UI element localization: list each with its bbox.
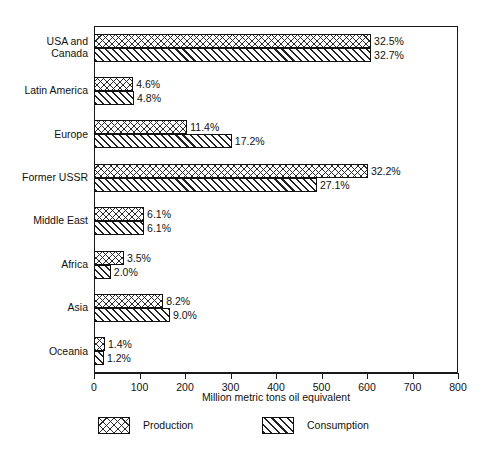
bar-value-label: 4.8% xyxy=(137,91,161,105)
bar-production xyxy=(94,120,187,134)
bar-production xyxy=(94,251,124,265)
bar-value-label: 6.1% xyxy=(147,207,171,221)
category-label-line: Oceania xyxy=(0,346,88,358)
bar-value-label: 32.2% xyxy=(371,164,401,178)
bar-chart: USA andCanadaLatin AmericaEuropeFormer U… xyxy=(0,0,486,453)
bar-production xyxy=(94,164,368,178)
category-label-line: Canada xyxy=(0,48,88,60)
category-label-line: Former USSR xyxy=(0,172,88,184)
x-axis-tick xyxy=(185,373,186,379)
bar-value-label: 17.2% xyxy=(235,134,265,148)
x-axis-title: Million metric tons oil equivalent xyxy=(94,391,458,403)
legend-item-production[interactable]: Production xyxy=(98,414,193,436)
bar-value-label: 9.0% xyxy=(173,308,197,322)
bar-production xyxy=(94,337,105,351)
bar-value-label: 4.6% xyxy=(136,77,160,91)
bar-value-label: 1.2% xyxy=(107,351,131,365)
bar-consumption xyxy=(94,351,104,365)
x-axis-tick xyxy=(231,373,232,379)
category-label: Latin America xyxy=(0,85,88,97)
bar-consumption xyxy=(94,221,144,235)
category-label: Asia xyxy=(0,302,88,314)
bar-value-label: 1.4% xyxy=(108,337,132,351)
bar-value-label: 2.0% xyxy=(114,265,138,279)
x-axis-tick xyxy=(322,373,323,379)
bar-value-label: 27.1% xyxy=(320,178,350,192)
bar-consumption xyxy=(94,48,371,62)
legend-label: Production xyxy=(143,419,193,431)
bar-value-label: 6.1% xyxy=(147,221,171,235)
x-axis-tick xyxy=(140,373,141,379)
category-axis-labels: USA andCanadaLatin AmericaEuropeFormer U… xyxy=(0,26,88,373)
bar-production xyxy=(94,207,144,221)
category-label: Former USSR xyxy=(0,172,88,184)
bar-production xyxy=(94,34,371,48)
category-label-line: Latin America xyxy=(0,85,88,97)
x-axis-tick xyxy=(458,373,459,379)
category-label-line: Africa xyxy=(0,259,88,271)
bar-production xyxy=(94,77,133,91)
category-label-line: USA and xyxy=(0,36,88,48)
bar-consumption xyxy=(94,134,232,148)
x-axis-tick xyxy=(413,373,414,379)
bar-consumption xyxy=(94,308,170,322)
x-axis-tick xyxy=(94,373,95,379)
category-label-line: Middle East xyxy=(0,215,88,227)
category-label: USA andCanada xyxy=(0,36,88,59)
bar-consumption xyxy=(94,265,111,279)
bar-value-label: 32.5% xyxy=(374,34,404,48)
x-axis-tick xyxy=(276,373,277,379)
legend-label: Consumption xyxy=(307,419,369,431)
bar-consumption xyxy=(94,91,134,105)
bar-value-label: 11.4% xyxy=(190,120,219,134)
legend-swatch-production xyxy=(98,417,130,434)
bar-value-label: 32.7% xyxy=(374,48,404,62)
legend-swatch-consumption xyxy=(262,417,294,434)
bar-consumption xyxy=(94,178,317,192)
bar-value-label: 3.5% xyxy=(127,251,151,265)
category-label: Africa xyxy=(0,259,88,271)
legend-item-consumption[interactable]: Consumption xyxy=(262,414,369,436)
category-label-line: Europe xyxy=(0,129,88,141)
category-label: Oceania xyxy=(0,346,88,358)
category-label-line: Asia xyxy=(0,302,88,314)
bar-production xyxy=(94,294,163,308)
bars-layer: 32.5%4.6%11.4%32.2%6.1%3.5%8.2%1.4%32.7%… xyxy=(94,26,458,373)
category-label: Europe xyxy=(0,129,88,141)
x-axis-tick xyxy=(367,373,368,379)
category-label: Middle East xyxy=(0,215,88,227)
x-axis-line: 0100200300400500600700800 xyxy=(94,373,458,374)
bar-value-label: 8.2% xyxy=(166,294,190,308)
